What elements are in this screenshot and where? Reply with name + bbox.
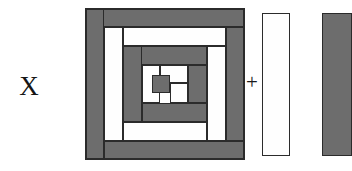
block-piece-r4-right — [170, 83, 188, 103]
block-piece-r2-bottom — [123, 122, 207, 141]
block-piece-r1-top — [86, 9, 244, 27]
block-piece-r2-top — [123, 27, 226, 46]
block-piece-r1-left — [86, 9, 104, 159]
block-piece-r3-left — [123, 46, 142, 122]
block-piece-r2-right — [207, 46, 226, 141]
block-piece-r3-bottom — [142, 103, 207, 122]
plus-operator-label: + — [245, 70, 259, 94]
block-piece-center — [152, 75, 170, 93]
light-fabric-strip — [262, 13, 290, 156]
block-piece-r1-bottom — [104, 141, 244, 159]
multiplier-label: X — [14, 69, 44, 103]
block-piece-r1-right — [226, 27, 244, 141]
dark-fabric-strip — [322, 13, 352, 156]
block-piece-r3-right — [188, 65, 207, 103]
block-piece-r2-left — [104, 27, 123, 141]
log-cabin-block — [86, 9, 244, 159]
